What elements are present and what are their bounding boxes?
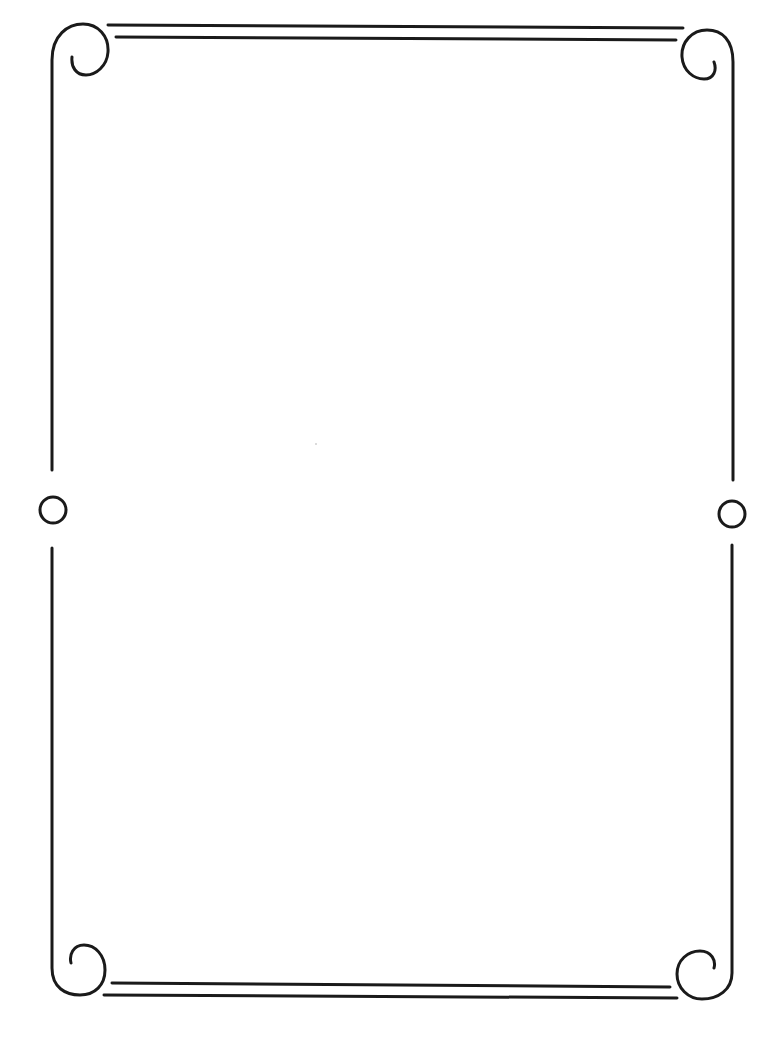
frame-content-area	[70, 60, 700, 980]
right-circle-ornament-icon	[719, 501, 745, 527]
bottom-rule-outer	[104, 995, 677, 998]
paper-speck	[315, 443, 317, 445]
left-circle-ornament-icon	[40, 497, 66, 523]
bottom-rule-inner	[112, 983, 670, 987]
top-rule-outer	[108, 25, 683, 28]
top-rule-inner	[116, 37, 676, 40]
